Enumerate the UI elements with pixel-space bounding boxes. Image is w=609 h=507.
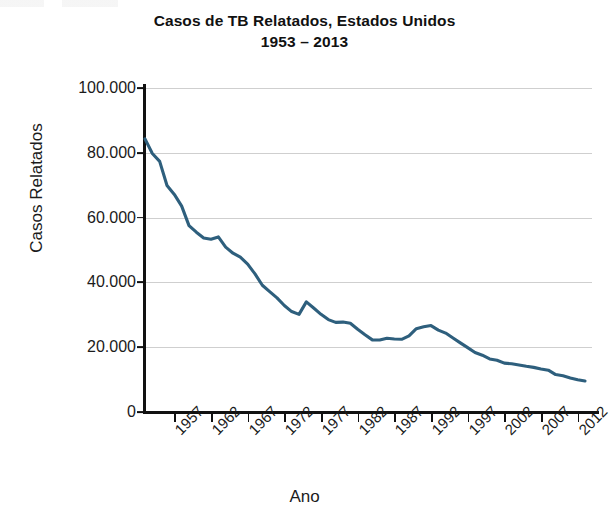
- tb-cases-line-chart: Casos de TB Relatados, Estados Unidos 19…: [0, 0, 609, 507]
- series-svg: [0, 0, 609, 507]
- series-line-casos-de-tb-relatados: [145, 139, 585, 381]
